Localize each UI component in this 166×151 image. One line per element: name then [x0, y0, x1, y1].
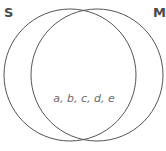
intersection-text: a, b, c, d, e: [53, 92, 115, 105]
circle-s: [4, 9, 136, 141]
label-m: M: [153, 5, 166, 20]
venn-diagram: S M a, b, c, d, e: [0, 0, 166, 151]
label-s: S: [4, 5, 13, 20]
circle-m: [31, 9, 163, 141]
